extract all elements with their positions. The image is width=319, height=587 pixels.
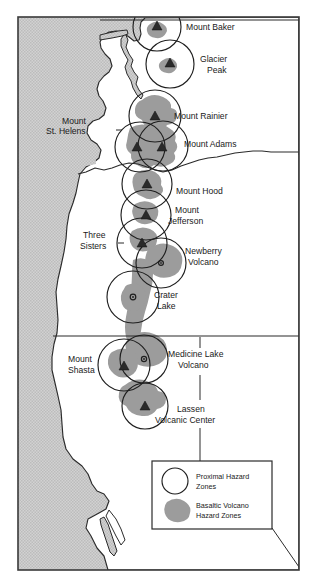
volcano-hazard-map: Mount Baker Glacier Peak Mount Rainier M… xyxy=(0,0,319,587)
label-newberry-line1: Newberry xyxy=(185,246,222,256)
legend-proximal-label-line1: Proximal Hazard xyxy=(196,472,249,481)
label-mount-baker: Mount Baker xyxy=(186,22,235,32)
label-lassen-line2: Volcanic Center xyxy=(155,415,215,425)
legend-basaltic-label-line1: Basaltic Volcano xyxy=(196,501,249,510)
label-mount-st-helens-line1: Mount xyxy=(62,116,86,126)
label-mount-jefferson-line2: Jefferson xyxy=(168,216,203,226)
label-newberry-line2: Volcano xyxy=(188,257,219,267)
label-mount-st-helens-line2: St. Helens xyxy=(46,126,86,136)
label-glacier-peak-line2: Peak xyxy=(207,65,227,75)
label-three-sisters-line1: Three xyxy=(83,230,106,240)
label-mount-shasta-line1: Mount xyxy=(68,354,92,364)
label-mount-jefferson-line1: Mount xyxy=(175,205,199,215)
label-medicine-lake-line1: Medicine Lake xyxy=(168,349,224,359)
legend-proximal-label-line2: Zones xyxy=(196,482,216,491)
label-mount-adams: Mount Adams xyxy=(184,139,237,149)
label-mount-hood: Mount Hood xyxy=(176,186,223,196)
label-glacier-peak-line1: Glacier xyxy=(200,54,227,64)
label-crater-lake-line2: Lake xyxy=(157,301,176,311)
label-medicine-lake-line2: Volcano xyxy=(178,360,209,370)
label-mount-shasta-line2: Shasta xyxy=(68,365,95,375)
label-mount-rainier: Mount Rainier xyxy=(174,111,228,121)
label-lassen-line1: Lassen xyxy=(177,404,205,414)
map-legend: Proximal Hazard Zones Basaltic Volcano H… xyxy=(152,461,272,529)
legend-basaltic-label-line2: Hazard Zones xyxy=(196,511,242,520)
label-crater-lake-line1: Crater xyxy=(154,290,178,300)
label-three-sisters-line2: Sisters xyxy=(80,241,106,251)
map-canvas: Mount Baker Glacier Peak Mount Rainier M… xyxy=(0,0,319,587)
